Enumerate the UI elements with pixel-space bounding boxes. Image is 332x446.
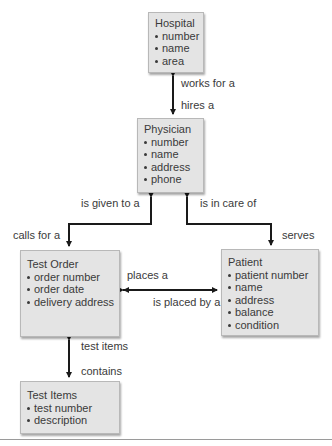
entity-physician: Physician number name address phone (137, 118, 204, 193)
attribute: name (144, 148, 197, 161)
entity-title: Hospital (155, 17, 197, 30)
attribute: name (228, 281, 312, 294)
bottom-divider (0, 439, 332, 440)
attribute: order number (27, 271, 113, 284)
label-is-in-care-of: is in care of (200, 197, 256, 209)
attribute: address (144, 161, 197, 174)
attribute: address (228, 294, 312, 307)
label-works-for-a: works for a (181, 77, 235, 89)
label-is-given-to-a: is given to a (81, 197, 140, 209)
attribute: area (155, 55, 197, 68)
attribute: number (144, 136, 197, 149)
attribute: order date (27, 283, 113, 296)
attribute: number (155, 30, 197, 43)
attribute: name (155, 42, 197, 55)
entity-title: Test Items (27, 389, 113, 402)
label-is-placed-by-a: is placed by a (153, 296, 220, 308)
attribute: phone (144, 173, 197, 186)
attribute: test number (27, 402, 113, 415)
attribute: balance (228, 306, 312, 319)
label-calls-for-a: calls for a (13, 229, 60, 241)
entity-title: Patient (228, 256, 312, 269)
entity-title: Physician (144, 123, 197, 136)
label-test-items: test items (81, 340, 128, 352)
label-contains: contains (81, 365, 122, 377)
entity-hospital: Hospital number name area (148, 12, 204, 73)
label-hires-a: hires a (181, 99, 214, 111)
attribute: condition (228, 319, 312, 332)
attribute: description (27, 414, 113, 427)
entity-patient: Patient patient number name address bala… (221, 249, 319, 336)
entity-title: Test Order (27, 258, 113, 271)
attribute: patient number (228, 269, 312, 282)
entity-test-order: Test Order order number order date deliv… (20, 250, 120, 337)
label-serves: serves (282, 229, 314, 241)
attribute: delivery address (27, 296, 113, 309)
entity-test-items: Test Items test number description (20, 381, 120, 434)
label-places-a: places a (127, 269, 168, 281)
